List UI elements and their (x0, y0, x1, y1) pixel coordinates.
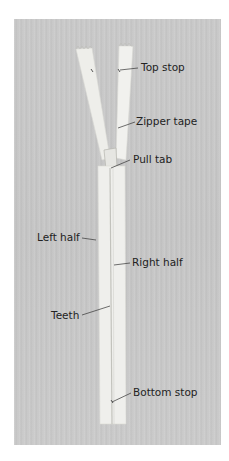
label-top-stop: Top stop (141, 61, 185, 73)
right-tape-top (116, 46, 133, 160)
label-left-half: Left half (37, 231, 80, 243)
leader-left-half (82, 238, 96, 240)
label-zipper-tape: Zipper tape (136, 115, 197, 127)
left-tape-top (76, 48, 110, 160)
label-bottom-stop: Bottom stop (133, 386, 198, 398)
label-right-half: Right half (132, 256, 183, 268)
label-pull-tab: Pull tab (133, 153, 172, 165)
label-teeth: Teeth (51, 309, 79, 321)
